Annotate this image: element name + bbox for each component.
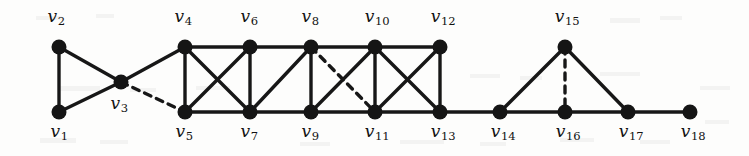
graph-node-v5 [178,105,193,120]
vertex-label-v1: v1 [50,123,67,140]
graph-node-v11 [368,105,383,120]
vertex-label-v14: v14 [491,123,516,140]
vertex-label-v2: v2 [47,8,64,25]
graph-node-v9 [304,105,319,120]
graph-node-v14 [493,105,508,120]
graph-node-v3 [114,75,129,90]
graph-edge-v3-v4 [121,47,185,82]
graph-node-v16 [558,105,573,120]
graph-edge-v7-v8 [250,47,311,112]
vertex-label-v16: v16 [556,123,581,140]
graph-node-v1 [52,105,67,120]
vertex-label-v18: v18 [681,123,706,140]
vertex-label-v4: v4 [174,8,191,25]
graph-edge-v14-v15 [500,47,565,112]
vertex-label-v17: v17 [619,123,644,140]
graph-node-v6 [243,40,258,55]
vertex-label-v3: v3 [110,95,127,112]
vertex-label-v9: v9 [301,123,318,140]
graph-edge-v3-v5 [121,82,185,112]
vertex-label-v12: v12 [431,8,456,25]
graph-node-v15 [558,40,573,55]
graph-node-v12 [433,40,448,55]
graph-node-v13 [433,105,448,120]
graph-node-v18 [683,105,698,120]
graph-node-v10 [368,40,383,55]
graph-node-v8 [304,40,319,55]
vertex-label-v11: v11 [365,123,390,140]
graph-figure: v1v2v3v4v5v6v7v8v9v10v11v12v13v14v15v16v… [0,0,749,156]
vertex-label-v15: v15 [555,8,580,25]
vertex-label-v7: v7 [240,123,257,140]
edge-layer [59,47,690,112]
graph-node-v4 [178,40,193,55]
vertex-label-v13: v13 [431,123,456,140]
vertex-label-v5: v5 [175,123,192,140]
graph-node-v7 [243,105,258,120]
vertex-label-v10: v10 [365,8,390,25]
vertex-label-v8: v8 [301,8,318,25]
graph-edge-v2-v3 [59,47,121,82]
graph-edge-v15-v17 [565,47,628,112]
vertex-label-v6: v6 [240,8,257,25]
graph-node-v17 [621,105,636,120]
graph-node-v2 [52,40,67,55]
